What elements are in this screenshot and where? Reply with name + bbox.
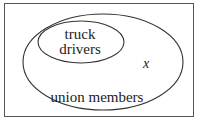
point-x-label: x xyxy=(142,56,150,71)
truck-drivers-label-line2: drivers xyxy=(59,41,101,57)
union-members-label: union members xyxy=(51,89,144,105)
truck-drivers-label-line1: truck xyxy=(65,26,96,42)
venn-diagram: truck drivers x union members xyxy=(0,0,197,123)
